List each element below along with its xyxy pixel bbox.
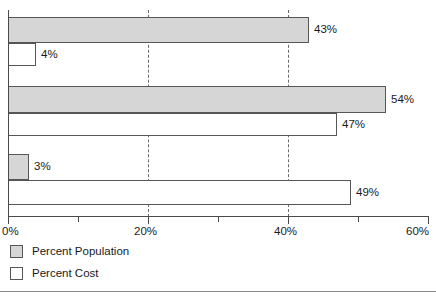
bar-value-label: 49% <box>356 186 379 199</box>
bar-cost-0 <box>8 43 36 66</box>
x-tick-40 <box>288 217 289 224</box>
bar-value-label: 47% <box>342 118 365 131</box>
bar-value-label: 3% <box>34 160 51 173</box>
legend: Percent PopulationPercent Cost <box>10 240 270 284</box>
bar-value-label: 43% <box>314 23 337 36</box>
bar-value-label: 54% <box>391 93 414 106</box>
legend-label: Percent Population <box>32 245 129 257</box>
bar-cost-2 <box>8 180 351 205</box>
x-tick-60 <box>428 217 429 224</box>
legend-item-population[interactable]: Percent Population <box>10 240 270 262</box>
bar-value-label: 4% <box>41 48 58 61</box>
legend-item-cost[interactable]: Percent Cost <box>10 262 270 284</box>
x-tick-label-0: 0% <box>2 224 19 238</box>
x-tick-10 <box>78 217 79 222</box>
x-tick-50 <box>358 217 359 222</box>
bar-pop-2 <box>8 154 29 180</box>
legend-swatch-icon <box>10 245 23 258</box>
legend-swatch-icon <box>10 267 23 280</box>
x-tick-30 <box>218 217 219 222</box>
y-axis-line <box>8 10 9 217</box>
bar-cost-1 <box>8 113 337 136</box>
bar-pop-0 <box>8 17 309 43</box>
legend-label: Percent Cost <box>32 267 98 279</box>
footer-rule <box>0 291 436 292</box>
x-tick-label-20: 20% <box>134 224 157 238</box>
bar-chart: 43%4%54%47%3%49% 0%20%40%60% Percent Pop… <box>0 0 436 300</box>
x-tick-label-60: 60% <box>406 224 429 238</box>
bar-pop-1 <box>8 86 386 113</box>
x-tick-20 <box>148 217 149 224</box>
x-tick-0 <box>8 217 9 224</box>
x-tick-label-40: 40% <box>274 224 297 238</box>
